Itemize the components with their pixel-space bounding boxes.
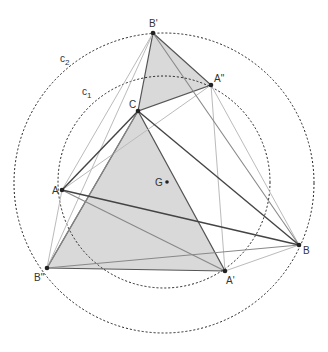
geometry-diagram: B' A" C G A B" A' B c2 c1 [0,0,328,352]
triangle-bprime-app-c [138,33,211,111]
label-c2: c2 [60,53,70,67]
label-b: B [303,245,310,256]
label-g: G [155,177,163,188]
label-bpp: B" [34,272,45,283]
label-app: A" [214,73,225,84]
label-c1: c1 [82,86,92,100]
triangle-c-bpp-ap [47,111,225,271]
label-ap: A' [226,275,235,286]
label-bprime: B' [149,18,158,29]
label-c: C [129,99,136,110]
label-a: A [52,185,59,196]
